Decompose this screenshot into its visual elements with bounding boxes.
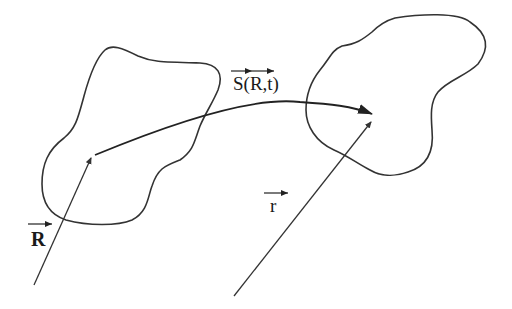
label-R-text: R [31,228,46,250]
label-r: r [264,193,288,216]
vector-S-curved-arrow [95,101,372,155]
label-S-text: S(R,t) [233,73,279,95]
diagram-svg: S(R,t) R r [0,0,512,309]
vector-r-arrow [234,122,371,296]
right-region-outline [306,15,486,175]
diagram-canvas: S(R,t) R r [0,0,512,309]
label-S: S(R,t) [231,71,279,95]
label-R: R [28,224,52,250]
left-region-outline [42,47,220,224]
label-r-text: r [270,195,277,216]
